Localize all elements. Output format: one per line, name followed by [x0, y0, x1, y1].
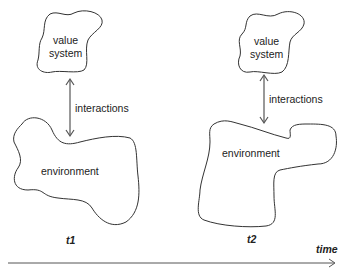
value-system-label-t1-line2: system	[49, 47, 83, 59]
time-axis-label: time	[316, 243, 338, 255]
time-label-t2: t2	[247, 233, 256, 245]
value-system-label-t2-line1: value	[254, 35, 279, 47]
environment-label-t2: environment	[222, 147, 280, 159]
environment-label-t1: environment	[41, 165, 99, 177]
interactions-label-t2: interactions	[269, 93, 323, 105]
time-label-t1: t1	[66, 234, 75, 246]
interactions-label-t1: interactions	[75, 102, 129, 114]
environment-blob-t2	[198, 121, 336, 227]
value-system-label-t2-line2: system	[250, 48, 284, 60]
diagram-canvas: value system interactions environment t1…	[0, 0, 345, 273]
value-system-label-t1-line1: value	[53, 34, 78, 46]
